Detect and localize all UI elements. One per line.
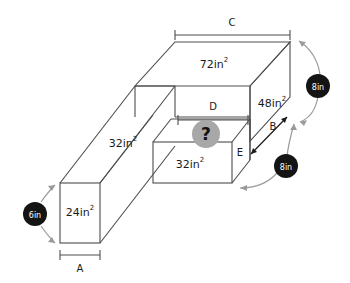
figure-container: C D A B E 72in2 48in bbox=[0, 0, 350, 283]
area-label-top-face-exponent: 2 bbox=[224, 56, 228, 64]
dimension-c-label: C bbox=[229, 17, 236, 28]
area-label-top-face-value: 72in bbox=[200, 58, 224, 71]
area-label-right-face-value: 48in bbox=[258, 97, 282, 110]
callout-8in-upper-arc-bottom bbox=[300, 96, 318, 122]
badge-6in-label: 6in bbox=[29, 211, 41, 220]
callout-8in-lower-arrowhead-top bbox=[290, 124, 297, 130]
dimension-e: E bbox=[237, 147, 243, 158]
dimension-a: A bbox=[60, 250, 100, 274]
area-label-small-box-front-value: 32in bbox=[176, 158, 200, 171]
callout-8in-upper: 8in bbox=[299, 41, 330, 126]
area-label-long-bar-front-exponent: 2 bbox=[90, 204, 94, 212]
question-marker-label: ? bbox=[201, 124, 211, 144]
callout-8in-lower-arrowhead-bottom bbox=[240, 185, 247, 191]
area-label-right-face-exponent: 2 bbox=[282, 95, 286, 103]
question-marker[interactable]: ? bbox=[192, 120, 220, 148]
dimension-b-label: B bbox=[270, 121, 277, 132]
badge-8in-lower-label: 8in bbox=[280, 163, 292, 172]
area-label-right-face: 48in2 bbox=[258, 95, 287, 110]
solid-body bbox=[60, 42, 290, 243]
composite-prism-diagram: C D A B E 72in2 48in bbox=[0, 0, 350, 283]
badge-8in-upper-label: 8in bbox=[312, 83, 324, 92]
area-label-long-bar-top-exponent: 2 bbox=[133, 135, 137, 143]
area-label-small-box-front-exponent: 2 bbox=[200, 156, 204, 164]
area-label-long-bar-top-value: 32in bbox=[109, 137, 133, 150]
dimension-c: C bbox=[175, 17, 290, 41]
callout-6in-arrowhead-bottom bbox=[48, 237, 55, 243]
area-label-long-bar-front-value: 24in bbox=[66, 206, 90, 219]
callout-6in-arrowhead-top bbox=[48, 185, 55, 191]
dimension-e-label: E bbox=[237, 147, 243, 158]
dimension-a-label: A bbox=[77, 263, 84, 274]
callout-6in: 6in bbox=[23, 185, 55, 243]
dimension-d-label: D bbox=[209, 101, 217, 112]
